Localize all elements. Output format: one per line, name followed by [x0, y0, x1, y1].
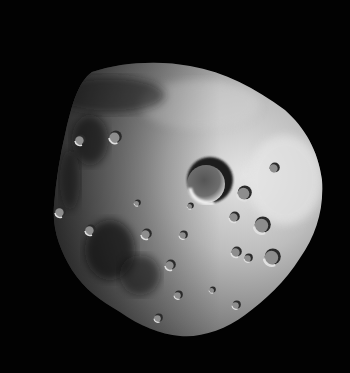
moon-photo — [0, 0, 350, 373]
moon-illustration — [0, 0, 350, 373]
